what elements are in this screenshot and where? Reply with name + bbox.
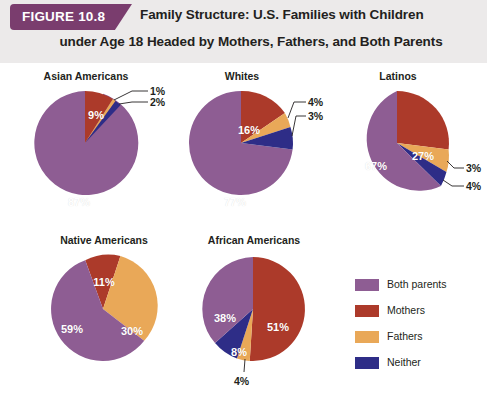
leader-african-fathers [244, 359, 245, 372]
leader-latinos-fathers [447, 161, 464, 168]
legend-label-both-parents: Both parents [387, 276, 447, 293]
slice-african-mothers [250, 257, 305, 361]
slice-label-whites-both-parents: 77% [224, 196, 246, 208]
callout-label-latinos-fathers: 3% [466, 162, 481, 174]
pie-chart-african-americans: African Americans 38% 51% 8% [188, 234, 320, 384]
figure-title-line-1: Family Structure: U.S. Families with Chi… [140, 7, 480, 22]
legend-swatch-fathers [355, 331, 379, 343]
pie-chart-latinos: Latinos 67% 27% [332, 70, 464, 210]
legend-label-neither: Neither [387, 354, 421, 371]
slice-label-african-mothers: 51% [267, 321, 289, 333]
pie-title-asian-americans: Asian Americans [20, 70, 152, 82]
pie-svg-native-americans [38, 252, 170, 370]
slice-label-asian-both-parents: 87% [68, 196, 90, 208]
slice-latinos-mothers [397, 91, 449, 150]
legend-swatch-both-parents [355, 279, 379, 291]
slice-label-native-both-parents: 59% [61, 323, 83, 335]
slice-label-asian-mothers: 9% [88, 109, 104, 121]
pie-title-native-americans: Native Americans [38, 234, 170, 246]
pie-chart-asian-americans: Asian Americans 87% 9% [20, 70, 152, 200]
legend-label-fathers: Fathers [387, 328, 423, 345]
pie-title-african-americans: African Americans [188, 234, 320, 246]
leader-asian-fathers [114, 91, 148, 100]
callout-label-asian-neither: 2% [150, 96, 165, 108]
callout-label-latinos-neither: 4% [466, 180, 481, 192]
slice-label-african-both-parents: 38% [214, 312, 236, 324]
legend-label-mothers: Mothers [387, 302, 425, 319]
callout-label-whites-neither: 3% [308, 110, 323, 122]
legend-swatch-mothers [355, 305, 379, 317]
callout-label-african-fathers: 4% [234, 375, 249, 387]
leader-whites-neither [292, 116, 306, 136]
leader-latinos-neither [443, 180, 464, 186]
slice-label-whites-mothers: 16% [238, 124, 260, 136]
slice-label-native-mothers: 11% [93, 276, 114, 288]
slice-label-latinos-both-parents: 67% [365, 160, 387, 172]
pie-svg-whites [176, 88, 308, 198]
legend-swatch-neither [355, 357, 379, 369]
pie-title-whites: Whites [176, 70, 308, 82]
figure-number-label: FIGURE 10.8 [10, 4, 122, 30]
callout-label-whites-fathers: 4% [308, 96, 323, 108]
slice-label-native-fathers: 30% [121, 325, 143, 337]
pie-svg-latinos [332, 88, 464, 208]
figure-panel: FIGURE 10.8 Family Structure: U.S. Famil… [0, 0, 487, 404]
figure-title-line-2: under Age 18 Headed by Mothers, Fathers,… [26, 34, 476, 49]
leader-asian-neither [119, 102, 148, 104]
slice-label-latinos-mothers: 27% [412, 150, 434, 162]
pie-chart-whites: Whites 77% 16% [176, 70, 308, 200]
slice-label-african-neither: 8% [231, 346, 247, 358]
pie-title-latinos: Latinos [332, 70, 464, 82]
pie-svg-african-americans [188, 252, 328, 380]
pie-chart-native-americans: Native Americans 59% 11% 30% [38, 234, 170, 374]
pie-svg-asian-americans [20, 88, 152, 198]
